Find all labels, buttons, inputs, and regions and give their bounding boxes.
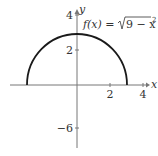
y-tick-label-4: 4 [66, 9, 73, 22]
y-tick-label-2: 2 [66, 44, 73, 57]
y-tick-label-neg6: −6 [57, 122, 73, 135]
function-label-prefix: f(x) = [82, 18, 115, 31]
x-tick-label-4: 4 [140, 88, 147, 101]
function-label: f(x) = 9 − x 2 [82, 16, 156, 31]
function-graph: 2 4 x 4 2 −6 y f(x) = 9 − x 2 [0, 0, 158, 156]
x-tick-label-2: 2 [107, 88, 114, 101]
x-axis-arrow-icon [146, 83, 150, 88]
y-axis: 4 2 −6 y [57, 3, 86, 148]
y-axis-label: y [78, 3, 86, 16]
function-label-exponent: 2 [152, 16, 156, 24]
x-axis: 2 4 x [10, 78, 158, 101]
x-axis-label: x [151, 78, 158, 91]
